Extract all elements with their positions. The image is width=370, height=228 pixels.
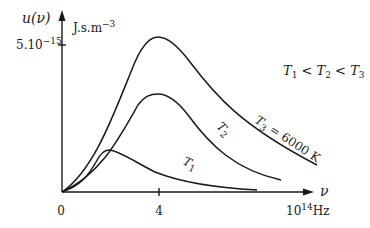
blackbody-chart: u(ν) J.s.m−3 5.10−15 0 4 ν 1014Hz T1 < T…: [0, 0, 370, 228]
y-unit-label: J.s.m−3: [71, 19, 116, 35]
y-axis-arrow-icon: [59, 10, 66, 21]
curve-label-t2: T2: [212, 119, 233, 140]
x-axis-label: ν: [320, 183, 329, 199]
curve-label-t3: T3 = 6000 K: [251, 113, 323, 168]
y-tick-label: 5.10−15: [16, 36, 62, 52]
x-unit-label: 1014Hz: [286, 202, 330, 218]
curve-label-t1: T1: [180, 154, 199, 174]
y-axis-label: u(ν): [22, 10, 50, 26]
temperature-relation: T1 < T2 < T3: [283, 63, 365, 80]
x-axis-arrow-icon: [303, 189, 314, 196]
x-tick-label-4: 4: [155, 204, 163, 218]
x-tick-label-0: 0: [57, 204, 65, 218]
